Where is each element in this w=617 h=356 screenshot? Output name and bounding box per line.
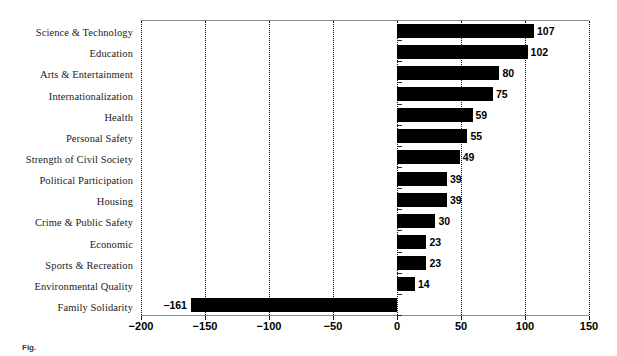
gridline-150 xyxy=(589,21,590,317)
xtick-label: −150 xyxy=(193,320,218,332)
bar-value-label: 14 xyxy=(418,277,430,291)
category-label: Family Solidarity xyxy=(0,302,133,313)
bar xyxy=(397,256,426,270)
bar-value-label: 107 xyxy=(537,24,555,38)
bar xyxy=(397,45,528,59)
xtick-label: 150 xyxy=(580,320,598,332)
bar xyxy=(397,66,499,80)
baseline-tick xyxy=(397,61,402,62)
bar xyxy=(191,298,397,312)
category-label: Strength of Civil Society xyxy=(0,154,133,165)
baseline-tick xyxy=(397,188,402,189)
figure: Science & TechnologyEducationArts & Ente… xyxy=(0,0,617,356)
baseline-tick xyxy=(397,104,402,105)
baseline-tick xyxy=(397,125,402,126)
category-label: Health xyxy=(0,112,133,123)
bar xyxy=(397,214,435,228)
category-label: Internationalization xyxy=(0,91,133,102)
bars-layer: 1071028075595549393930232314−161 xyxy=(141,20,589,316)
category-label: Science & Technology xyxy=(0,27,133,38)
bar-value-label: 39 xyxy=(450,193,462,207)
baseline-tick xyxy=(397,82,402,83)
bar-value-label: −161 xyxy=(163,298,187,312)
category-label: Arts & Entertainment xyxy=(0,69,133,80)
bar xyxy=(397,277,415,291)
category-label: Environmental Quality xyxy=(0,281,133,292)
xtick-label: 0 xyxy=(394,320,400,332)
bar-value-label: 59 xyxy=(476,108,488,122)
bar xyxy=(397,24,534,38)
bar-value-label: 39 xyxy=(450,172,462,186)
xtick-label: −100 xyxy=(257,320,282,332)
xtick-label: 100 xyxy=(516,320,534,332)
xtick-label: 50 xyxy=(455,320,467,332)
bar xyxy=(397,235,426,249)
baseline-tick xyxy=(397,167,402,168)
category-label: Economic xyxy=(0,239,133,250)
baseline-tick xyxy=(397,273,402,274)
category-label: Personal Safety xyxy=(0,133,133,144)
bar-value-label: 30 xyxy=(438,214,450,228)
baseline-tick xyxy=(397,294,402,295)
category-label: Sports & Recreation xyxy=(0,260,133,271)
category-label: Housing xyxy=(0,196,133,207)
xtick-label: −200 xyxy=(129,320,154,332)
baseline-tick xyxy=(397,146,402,147)
bar-value-label: 102 xyxy=(531,45,549,59)
x-axis: −200−150−100−50050100150 xyxy=(141,316,589,338)
bar-value-label: 23 xyxy=(429,235,441,249)
baseline-tick xyxy=(397,40,402,41)
category-label: Crime & Public Safety xyxy=(0,217,133,228)
category-axis: Science & TechnologyEducationArts & Ente… xyxy=(0,22,133,316)
category-label: Education xyxy=(0,48,133,59)
bar xyxy=(397,193,447,207)
figure-caption: Fig. xyxy=(22,343,602,356)
bar xyxy=(397,87,493,101)
bar xyxy=(397,150,460,164)
baseline-tick xyxy=(397,230,402,231)
caption-prefix: Fig. xyxy=(22,343,36,352)
bar xyxy=(397,108,473,122)
bar-value-label: 80 xyxy=(502,66,514,80)
bar-value-label: 49 xyxy=(463,150,475,164)
xtick-label: −50 xyxy=(324,320,343,332)
bar xyxy=(397,129,467,143)
bar-value-label: 55 xyxy=(470,129,482,143)
baseline-tick xyxy=(397,209,402,210)
baseline-tick xyxy=(397,252,402,253)
bar xyxy=(397,172,447,186)
category-label: Political Participation xyxy=(0,175,133,186)
bar-value-label: 23 xyxy=(429,256,441,270)
bar-value-label: 75 xyxy=(496,87,508,101)
